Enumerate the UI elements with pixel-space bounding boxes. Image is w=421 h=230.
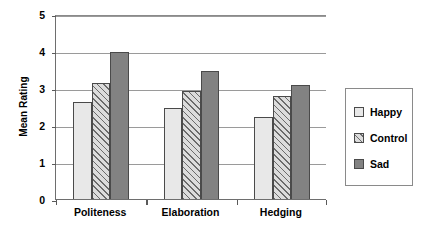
y-tick-label-5: 5 — [31, 10, 45, 21]
x-axis-line — [55, 199, 326, 200]
y-axis-title: Mean Rating — [18, 42, 29, 172]
y-axis-tick-labels: 012345 — [29, 0, 45, 230]
bar-elaboration-control — [182, 91, 201, 200]
bar-hedging-happy — [254, 117, 273, 200]
legend-swatch-happy-icon — [354, 107, 364, 117]
bar-politeness-sad — [110, 52, 129, 200]
y-tickmark-3 — [52, 90, 56, 91]
x-tickmark-3 — [326, 200, 327, 205]
y-tick-label-4: 4 — [31, 47, 45, 58]
plot-area — [55, 15, 326, 200]
legend-label-control: Control — [370, 133, 407, 144]
y-tick-label-1: 1 — [31, 158, 45, 169]
y-tick-label-2: 2 — [31, 121, 45, 132]
x-category-label-politeness: Politeness — [74, 206, 127, 218]
x-tickmark-0 — [56, 200, 57, 205]
y-tick-label-3: 3 — [31, 84, 45, 95]
x-category-label-hedging: Hedging — [260, 206, 302, 218]
chart-legend: HappyControlSad — [345, 88, 413, 186]
bar-elaboration-happy — [164, 108, 183, 201]
legend-swatch-sad-icon — [354, 159, 364, 169]
bar-politeness-happy — [73, 102, 92, 200]
y-tickmark-1 — [52, 164, 56, 165]
bar-hedging-control — [273, 96, 292, 200]
bar-elaboration-sad — [201, 71, 220, 200]
x-category-label-elaboration: Elaboration — [162, 206, 220, 218]
bar-politeness-control — [92, 83, 111, 200]
y-tickmark-5 — [52, 16, 56, 17]
legend-label-happy: Happy — [370, 107, 402, 118]
bar-chart-figure: Mean Rating 012345 PolitenessElaboration… — [0, 0, 421, 230]
y-tickmark-0 — [52, 201, 56, 202]
x-tickmark-1 — [146, 200, 147, 205]
y-tickmark-2 — [52, 127, 56, 128]
y-tick-label-0: 0 — [31, 195, 45, 206]
y-tickmark-4 — [52, 53, 56, 54]
legend-item-sad: Sad — [354, 159, 389, 170]
legend-item-happy: Happy — [354, 107, 402, 118]
x-tickmark-2 — [237, 200, 238, 205]
legend-item-control: Control — [354, 133, 407, 144]
plot-inner — [56, 16, 326, 200]
legend-label-sad: Sad — [370, 159, 389, 170]
bar-hedging-sad — [291, 85, 310, 200]
legend-swatch-control-icon — [354, 133, 364, 143]
bars-layer — [56, 16, 326, 200]
